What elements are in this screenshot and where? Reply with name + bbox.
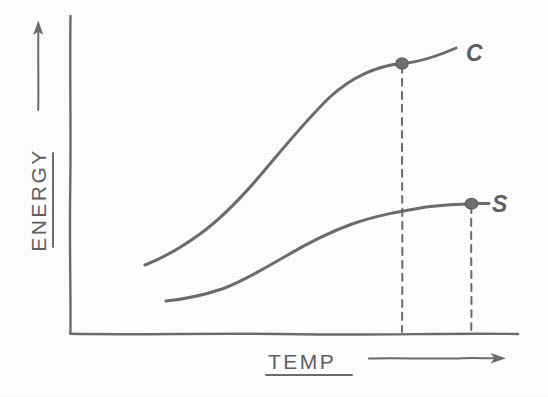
arrow-up-icon [33, 21, 43, 111]
arrow-right-icon [369, 353, 506, 364]
curve-s-path [166, 204, 472, 301]
curve-c-path [145, 48, 456, 265]
y-axis-line [70, 16, 71, 334]
markers-group [396, 58, 478, 209]
x-axis-title-group: TEMP [266, 350, 352, 375]
chart-canvas: ENERGY C S TEMP [0, 0, 548, 397]
c-marker-dot [396, 58, 408, 69]
x-axis-title: TEMP [268, 350, 336, 373]
x-axis-line [70, 334, 518, 335]
y-axis-title-group: ENERGY [27, 148, 53, 252]
droplines-group [402, 66, 471, 332]
sketch-figure: ENERGY C S TEMP [0, 0, 548, 397]
series-curve-c [145, 48, 456, 265]
s-marker-dot [465, 198, 478, 209]
curve-label-c: C [466, 40, 483, 66]
series-curve-s [166, 203, 489, 301]
y-axis-title: ENERGY [27, 148, 50, 252]
curve-label-s: S [492, 191, 508, 217]
axes-group [70, 16, 518, 335]
